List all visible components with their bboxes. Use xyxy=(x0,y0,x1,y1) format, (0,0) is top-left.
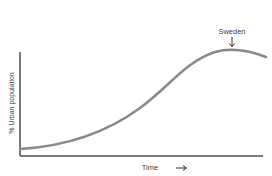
x-axis-label: Time xyxy=(142,163,158,172)
annotation-label: Sweden xyxy=(218,27,245,36)
urbanization-curve xyxy=(20,50,266,149)
y-axis-label: % Urban population xyxy=(8,72,16,134)
urbanization-chart: Sweden Time % Urban population xyxy=(0,0,272,176)
